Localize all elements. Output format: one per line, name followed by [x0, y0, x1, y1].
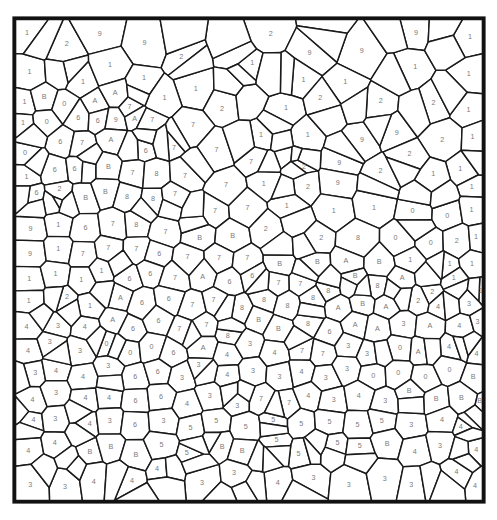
- puzzle-canvas[interactable]: 129922999111111111111B0AA7121222110669A7…: [0, 0, 497, 520]
- puzzle-cell[interactable]: [44, 236, 73, 263]
- puzzle-cell[interactable]: [148, 408, 179, 434]
- puzzle-cell[interactable]: [67, 363, 98, 390]
- puzzle-cell[interactable]: [230, 411, 261, 440]
- puzzle-cells-layer[interactable]: [16, 20, 483, 501]
- puzzle-cell[interactable]: [16, 240, 47, 267]
- puzzle-cell[interactable]: [398, 397, 424, 414]
- puzzle-cell[interactable]: [96, 408, 124, 434]
- puzzle-cell[interactable]: [201, 408, 231, 432]
- puzzle-cell[interactable]: [121, 388, 150, 412]
- puzzle-cell[interactable]: [120, 411, 149, 439]
- puzzle-cell[interactable]: [16, 216, 48, 241]
- color-by-number-page: 129922999111111111111B0AA7121222110669A7…: [0, 0, 497, 520]
- puzzle-cell[interactable]: [40, 261, 70, 288]
- puzzle-cell[interactable]: [468, 223, 482, 253]
- puzzle-cell[interactable]: [66, 156, 83, 184]
- puzzle-cell[interactable]: [459, 196, 482, 226]
- puzzle-cell[interactable]: [280, 50, 294, 95]
